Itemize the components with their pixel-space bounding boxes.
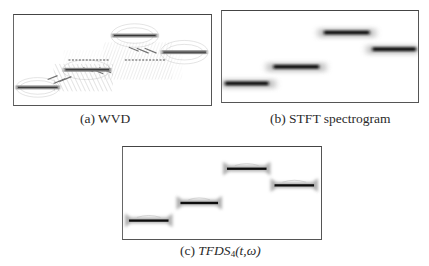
stft-spectrogram-plot — [221, 10, 419, 103]
wvd-plot — [13, 14, 212, 106]
caption-tfds4: (c) TFDS4(t,ω) — [180, 244, 261, 259]
tfds4-image — [123, 147, 321, 239]
caption-stft-spectrogram: (b) STFT spectrogram — [270, 112, 390, 126]
caption-tfds-args: (t,ω) — [235, 243, 261, 258]
caption-tfds-name: TFDS — [198, 243, 230, 258]
tfds4-energy-bars — [125, 162, 318, 228]
caption-wvd: (a) WVD — [80, 112, 130, 126]
stft-energy-bars — [222, 29, 418, 89]
caption-label: (c) — [180, 243, 195, 258]
wvd-image — [14, 15, 211, 105]
tfds4-plot — [122, 146, 322, 240]
stft-image — [222, 11, 418, 102]
wvd-cross-terms — [48, 42, 183, 91]
